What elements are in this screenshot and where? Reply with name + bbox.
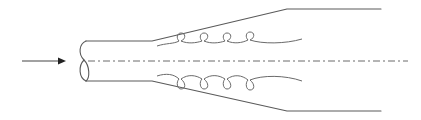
pipe-inlet-section [80,41,89,81]
flow-arrow-icon [22,58,66,65]
upper-helical-coil [157,32,302,46]
pipe-lower-wall [86,81,381,111]
nozzle-diagram [0,0,421,120]
lower-helical-coil [157,74,302,90]
pipe-upper-wall [86,9,381,41]
